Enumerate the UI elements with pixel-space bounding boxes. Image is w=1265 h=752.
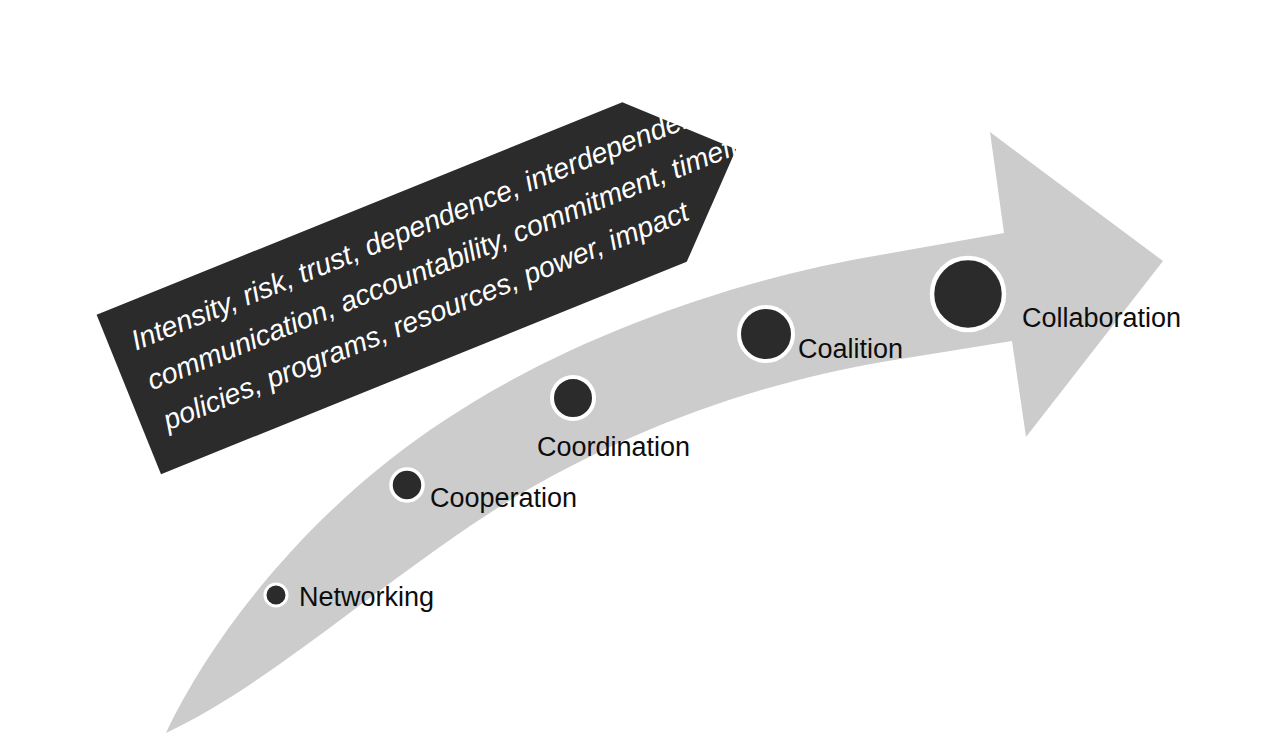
stage-label-coalition: Coalition [798, 334, 903, 364]
stage-label-cooperation: Cooperation [430, 483, 577, 513]
stage-node-coordination[interactable] [552, 377, 594, 419]
stage-label-coordination: Coordination [537, 432, 690, 462]
stage-label-networking: Networking [299, 582, 434, 612]
stage-node-cooperation[interactable] [391, 469, 423, 501]
stage-label-collaboration: Collaboration [1022, 303, 1181, 333]
collaboration-continuum-diagram: Intensity, risk, trust, dependence, inte… [0, 0, 1265, 752]
stage-node-coalition[interactable] [739, 307, 793, 361]
stage-node-networking[interactable] [265, 584, 287, 606]
diagram-canvas: Intensity, risk, trust, dependence, inte… [0, 0, 1265, 752]
stage-node-collaboration[interactable] [932, 258, 1004, 330]
